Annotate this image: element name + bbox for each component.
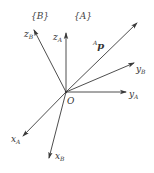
- x-b-label: xB: [55, 151, 65, 162]
- position-vector-label: Ap: [92, 39, 104, 51]
- position-vector-arrow: [66, 23, 137, 92]
- y-b-label: yB: [135, 64, 146, 75]
- z-b-label: zB: [23, 29, 34, 40]
- x-a-label: xA: [11, 134, 21, 145]
- origin-point: [65, 91, 67, 93]
- origin-label: O: [67, 96, 75, 106]
- coordinate-frames-diagram: {B} {A} zB zA Ap yB yA xA xB O: [0, 0, 154, 173]
- frame-b-label: {B}: [31, 11, 49, 21]
- y-b-axis-arrow: [66, 63, 134, 92]
- x-b-axis-arrow: [49, 92, 66, 158]
- y-a-label: yA: [128, 89, 139, 100]
- frame-a-label: {A}: [74, 11, 92, 21]
- x-a-axis-arrow: [23, 92, 66, 136]
- z-a-label: zA: [52, 32, 63, 43]
